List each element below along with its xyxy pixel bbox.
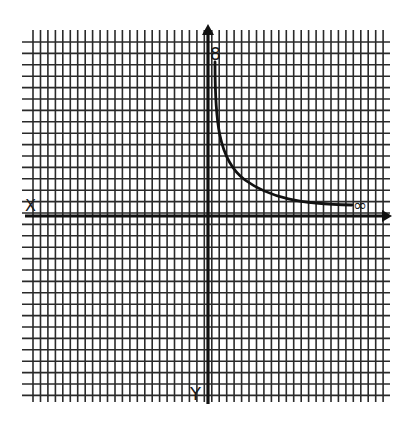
graph-paper-diagram: 8 ∞ X Y <box>0 0 414 428</box>
y-axis-arrow-icon <box>202 24 214 35</box>
x-axis-right-label: ∞ <box>353 195 367 215</box>
x-axis-left-label: X <box>25 196 36 215</box>
y-axis-bottom-label: Y <box>189 383 202 404</box>
y-axis-top-label: 8 <box>210 44 221 64</box>
x-axis-arrow-icon <box>382 210 392 222</box>
